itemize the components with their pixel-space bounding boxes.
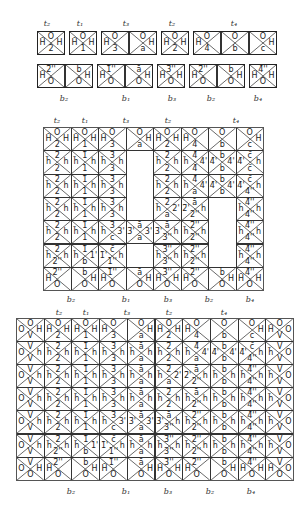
group-label-top: t₁ [77,19,83,28]
column-label-bottom: b₁ [122,487,130,496]
tile-group-b2 [37,64,93,88]
group-label-bottom: b₁ [122,94,130,103]
column-label-bottom: b₂ [205,295,213,304]
group-label-bottom: b₂ [207,94,215,103]
group-label-top: t₂ [169,19,175,28]
tile-group-t2 [37,31,65,55]
grid-border [16,318,294,481]
tile-group-b1 [97,64,153,88]
column-label-bottom: b₄ [246,295,254,304]
group-label-top: t₂ [44,19,50,28]
group-label-bottom: b₄ [254,94,262,103]
column-label-top: t₂ [54,116,60,125]
column-label-bottom: b₃ [164,295,172,304]
group-label-top: t₃ [123,19,129,28]
column-label-bottom: b₂ [206,487,214,496]
column-label-top: t₂ [166,308,172,317]
tile-group-b2 [189,64,245,88]
group-label-top: t₄ [231,19,237,28]
column-label-top: t₄ [221,308,227,317]
tile-group-b3 [157,64,185,88]
group-label-bottom: b₂ [60,94,68,103]
column-label-top: t₃ [123,116,129,125]
column-label-bottom: b₃ [164,487,172,496]
column-label-bottom: b₂ [67,487,75,496]
tile-group-t4 [193,31,277,55]
tile-group-t1 [69,31,97,55]
column-label-bottom: b₄ [247,487,255,496]
tile-group-b4 [249,64,277,88]
column-label-bottom: b₁ [122,295,130,304]
column-label-top: t₄ [233,116,239,125]
column-label-top: t₃ [124,308,130,317]
tile-group-t3 [101,31,157,55]
column-label-top: t₁ [83,308,89,317]
grid-border [43,127,264,291]
group-label-bottom: b₃ [168,94,176,103]
column-label-top: t₂ [165,116,171,125]
column-label-bottom: b₂ [67,295,75,304]
tile-group-t2 [161,31,189,55]
column-label-top: t₁ [82,116,88,125]
column-label-top: t₂ [56,308,62,317]
